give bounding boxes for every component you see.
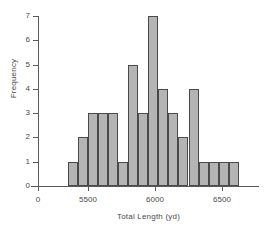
- histogram-bar: [78, 137, 88, 186]
- histogram-bar: [138, 113, 148, 186]
- histogram-bar: [98, 113, 108, 186]
- histogram-chart: Frequency 01234567 0550060006500 Total L…: [0, 0, 265, 232]
- histogram-bar: [148, 16, 158, 186]
- plot-area: [0, 0, 265, 232]
- histogram-bar: [168, 113, 178, 186]
- histogram-bar: [229, 162, 239, 186]
- histogram-bar: [88, 113, 98, 186]
- histogram-bar: [158, 89, 168, 186]
- x-axis-label: Total Length (yd): [38, 212, 259, 221]
- histogram-bar: [178, 137, 188, 186]
- histogram-bar: [199, 162, 209, 186]
- histogram-bar: [209, 162, 219, 186]
- histogram-bar: [68, 162, 78, 186]
- histogram-bar: [128, 65, 138, 186]
- histogram-bar: [219, 162, 229, 186]
- histogram-bar: [108, 113, 118, 186]
- histogram-bar: [118, 162, 128, 186]
- histogram-bar: [189, 89, 199, 186]
